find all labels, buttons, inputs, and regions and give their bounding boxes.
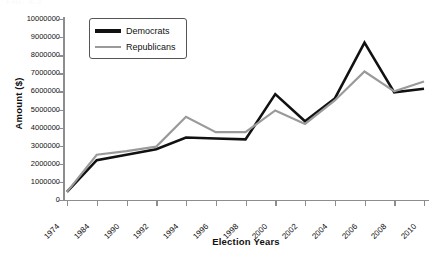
y-axis-tick-mark [58,73,63,74]
x-axis-tick-mark [186,201,187,206]
y-axis-tick-mark [58,182,63,183]
x-axis-tick-mark [335,201,336,206]
y-axis-tick-mark [58,200,63,201]
legend-entry-republicans[interactable]: Republicans [95,39,181,55]
legend-label: Republicans [126,42,176,52]
series-line-democrats [67,43,424,192]
chart-legend: DemocratsRepublicans [89,18,187,59]
x-axis-tick-label: 1974 [42,222,61,241]
x-axis-tick-mark [127,201,128,206]
y-axis-tick-mark [58,128,63,129]
scan-header-fragment: FIG. 4.2 [6,0,76,7]
legend-swatch-icon [95,29,121,32]
x-axis-tick-mark [246,201,247,206]
y-axis-tick-label: 7000000 [14,69,60,77]
legend-entry-democrats[interactable]: Democrats [95,23,181,39]
y-axis-tick-label: 1000000 [14,178,60,186]
y-axis-tick-mark [58,146,63,147]
x-axis-tick-mark [394,201,395,206]
series-line-republicans [67,71,424,191]
y-axis-tick-label: 5000000 [14,106,60,114]
y-axis-tick-label: 4000000 [14,124,60,132]
x-axis-tick-mark [156,201,157,206]
y-axis-tick-label: 2000000 [14,160,60,168]
x-axis-tick-mark [305,201,306,206]
y-axis-tick-label: 8000000 [14,51,60,59]
y-axis-tick-label: 6000000 [14,87,60,95]
legend-label: Democrats [126,26,170,36]
chart-figure: FIG. 4.2 Amount ($) 10000000900000080000… [0,0,433,255]
y-axis-tick-label: 10000000 [14,15,60,23]
y-axis-tick-mark [58,164,63,165]
legend-swatch-icon [95,46,121,48]
x-axis-tick-mark [216,201,217,206]
y-axis-tick-label: 9000000 [14,33,60,41]
y-axis-tick-labels: 1000000090000008000000700000060000005000… [14,14,60,204]
y-axis-tick-mark [58,19,63,20]
x-axis-tick-mark [365,201,366,206]
x-axis-tick-mark [275,201,276,206]
x-axis-tick-mark [424,201,425,206]
y-axis-tick-mark [58,55,63,56]
y-axis-tick-mark [58,37,63,38]
x-axis-tick-mark [97,201,98,206]
y-axis-tick-label: 3000000 [14,142,60,150]
y-axis-tick-mark [58,110,63,111]
y-axis-tick-label: 0 [14,196,60,204]
y-axis-tick-mark [58,91,63,92]
x-axis-tick-mark [67,201,68,206]
